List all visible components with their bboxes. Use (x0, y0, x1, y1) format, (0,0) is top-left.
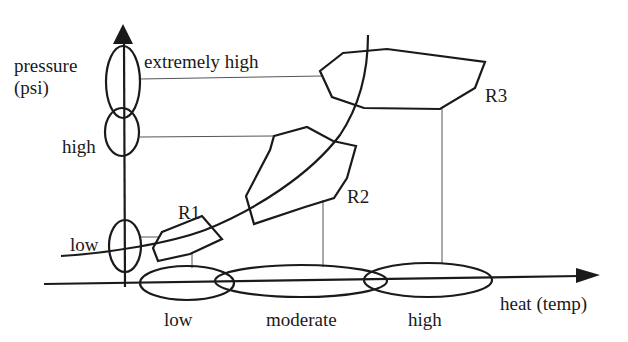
x-axis (44, 268, 600, 284)
pressure-label-low: low (70, 235, 99, 254)
x-axis-label: heat (temp) (500, 294, 587, 313)
region-r1-label: R1 (178, 203, 200, 222)
heat-label-moderate: moderate (266, 310, 337, 329)
region-r2-label: R2 (347, 187, 369, 206)
guide-lines (140, 76, 442, 268)
pressure-sets (105, 46, 141, 272)
fuzzy-rule-diagram (0, 0, 628, 342)
pressure-label-extremely-high: extremely high (144, 52, 259, 71)
pressure-set-high (105, 108, 139, 156)
region-r3-label: R3 (485, 86, 507, 105)
x-axis-arrow-icon (576, 268, 600, 283)
region-r3 (320, 49, 485, 109)
y-axis-label-line1: pressure (14, 56, 77, 75)
heat-label-low: low (164, 310, 193, 329)
heat-label-high: high (408, 310, 442, 329)
y-axis-label-line2: (psi) (14, 78, 49, 97)
y-axis-arrow-icon (113, 24, 133, 44)
pressure-label-high: high (62, 137, 96, 156)
